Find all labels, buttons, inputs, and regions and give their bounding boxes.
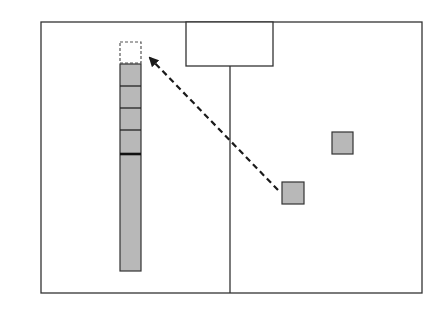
stacked-column [120, 64, 141, 271]
diagram-canvas [0, 0, 444, 315]
target-slot-dashed [120, 42, 141, 63]
move-arrow [150, 58, 278, 190]
block-static [332, 132, 353, 154]
top-box [186, 22, 273, 66]
block-moving [282, 182, 304, 204]
